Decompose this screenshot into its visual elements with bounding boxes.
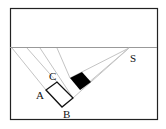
diagram-canvas: C A B S	[0, 0, 166, 129]
square-abc	[46, 82, 73, 107]
outer-frame	[11, 9, 158, 120]
shadow-square	[70, 72, 91, 90]
label-s: S	[130, 52, 136, 64]
converging-rays	[70, 48, 129, 98]
label-a: A	[36, 89, 44, 101]
label-c: C	[49, 70, 56, 82]
label-b: B	[63, 108, 70, 120]
